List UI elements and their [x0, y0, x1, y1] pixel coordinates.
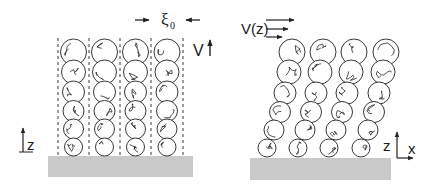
blob: [155, 60, 179, 84]
blob-size-symbol: ξ: [161, 10, 169, 29]
blob-circle: [94, 81, 116, 103]
blob: [64, 119, 84, 139]
blob: [371, 60, 395, 84]
polymer-chain: [123, 39, 149, 156]
right-polymer-chains: [258, 39, 399, 157]
blob: [326, 120, 346, 140]
blob: [63, 101, 84, 122]
blob-circle: [158, 138, 176, 156]
blob: [358, 120, 378, 140]
blob: [364, 102, 385, 123]
blob-circle: [295, 120, 315, 140]
blob: [96, 138, 114, 156]
blob: [158, 138, 176, 156]
left-substrate: [48, 156, 193, 177]
blob: [277, 60, 301, 84]
blob-circle: [124, 60, 148, 84]
blob: [125, 81, 147, 103]
right-substrate: [250, 158, 391, 180]
blob: [332, 102, 353, 123]
blob-circle: [352, 139, 370, 157]
blob-circle: [156, 81, 178, 103]
right-panel: V(z) z x: [241, 20, 416, 180]
blob: [339, 60, 363, 84]
blob: [368, 82, 390, 104]
blob: [95, 119, 115, 139]
blob-circle: [62, 60, 86, 84]
polymer-chain: [154, 39, 180, 156]
polymer-chain: [92, 39, 118, 156]
blob: [65, 138, 83, 156]
blob: [308, 60, 332, 84]
blob: [63, 81, 85, 103]
blob: [94, 81, 116, 103]
blob-circle: [277, 60, 301, 84]
height-axis: z: [19, 128, 35, 153]
blob: [157, 119, 177, 139]
blob: [62, 60, 86, 84]
blob-circle: [125, 101, 146, 122]
blob-circle: [126, 119, 146, 139]
blob: [264, 120, 284, 140]
blob-circle: [63, 81, 85, 103]
blob: [274, 82, 296, 104]
x-axis-label: x: [408, 140, 416, 157]
polymer-chain: [61, 39, 87, 156]
blob: [352, 139, 370, 157]
blob: [336, 82, 358, 104]
blob: [289, 139, 307, 157]
blob-circle: [368, 82, 390, 104]
blob-circle: [301, 102, 322, 123]
velocity-symbol: V: [193, 42, 204, 59]
coordinate-axes: z x: [383, 132, 416, 158]
blob: [270, 102, 291, 123]
blob: [301, 102, 322, 123]
blob: [94, 101, 115, 122]
blob: [93, 60, 117, 84]
blob-circle: [157, 119, 177, 139]
blob: [258, 139, 276, 157]
blob-circle: [332, 102, 353, 123]
blob: [127, 138, 145, 156]
blob-circle: [96, 138, 114, 156]
blob-circle: [270, 102, 291, 123]
blob: [320, 139, 338, 157]
blob: [126, 119, 146, 139]
left-panel: ξ 0 V z: [19, 10, 210, 177]
velocity-profile-symbol: V(z): [241, 20, 269, 37]
blob: [156, 81, 178, 103]
blob-size-label: ξ 0: [135, 10, 200, 31]
blob: [125, 101, 146, 122]
height-axis-label: z: [27, 136, 35, 153]
blob-circle: [358, 120, 378, 140]
blob: [157, 101, 178, 122]
velocity-label: V: [193, 40, 210, 59]
blob-circle: [326, 120, 346, 140]
blob: [295, 120, 315, 140]
blob: [124, 60, 148, 84]
blob: [305, 82, 327, 104]
blob-size-subscript: 0: [170, 20, 175, 31]
z-axis-label: z: [383, 137, 391, 154]
brush-diagram: ξ 0 V z V(z) z x: [0, 0, 438, 188]
velocity-profile-label: V(z): [241, 20, 294, 37]
blob-circle: [274, 82, 296, 104]
